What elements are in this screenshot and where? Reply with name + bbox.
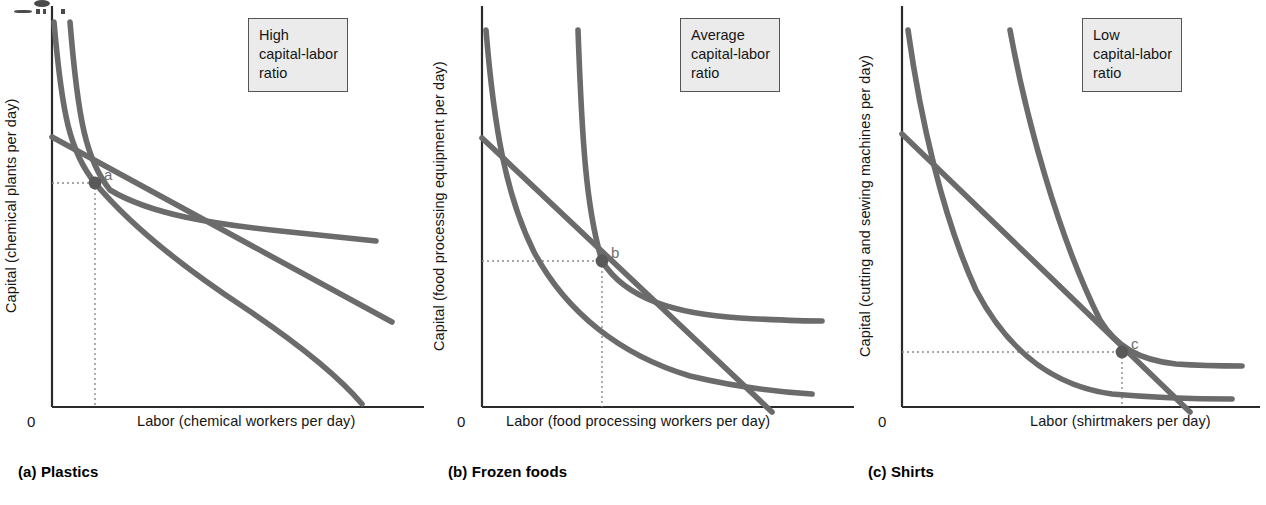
point-label-a: a: [104, 167, 112, 182]
isocost-line-b: [482, 138, 772, 412]
callout-average-ratio: Average capital-labor ratio: [680, 18, 780, 92]
panel-frozen-foods: Capital (food processing equipment per d…: [430, 0, 860, 505]
y-axis-label-c: Capital (cutting and sewing machines per…: [858, 8, 873, 404]
isoquant-curve-lower-c: [908, 30, 1232, 399]
panel-shirts: Capital (cutting and sewing machines per…: [860, 0, 1266, 505]
equilibrium-point-a: [89, 177, 102, 190]
point-label-b: b: [611, 245, 619, 260]
y-axis-label-b: Capital (food processing equipment per d…: [432, 8, 447, 404]
panel-b-plot: [430, 0, 860, 505]
panel-caption-b: (b) Frozen foods: [448, 464, 567, 479]
x-axis-label-b: Labor (food processing workers per day): [506, 414, 770, 429]
figure-root: Capital (chemical plants per day) 0 Labo…: [0, 0, 1266, 505]
y-axis-label-a: Capital (chemical plants per day): [4, 10, 19, 402]
x-axis-label-a: Labor (chemical workers per day): [137, 414, 355, 429]
point-label-c: c: [1131, 336, 1139, 351]
origin-label-b: 0: [457, 414, 465, 429]
equilibrium-point-b: [596, 255, 609, 268]
callout-low-ratio: Low capital-labor ratio: [1082, 18, 1182, 92]
panel-caption-a: (a) Plastics: [18, 464, 98, 479]
callout-high-ratio: High capital-labor ratio: [248, 18, 348, 92]
equilibrium-point-c: [1116, 346, 1129, 359]
x-axis-label-c: Labor (shirtmakers per day): [1030, 414, 1211, 429]
panel-a-plot: [0, 0, 430, 505]
panel-plastics: Capital (chemical plants per day) 0 Labo…: [0, 0, 430, 505]
origin-label-a: 0: [27, 414, 35, 429]
panel-caption-c: (c) Shirts: [868, 464, 934, 479]
origin-label-c: 0: [878, 414, 886, 429]
panel-c-plot: [860, 0, 1266, 505]
